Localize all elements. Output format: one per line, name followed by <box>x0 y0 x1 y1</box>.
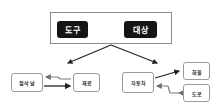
car-label: 자동차 <box>131 79 146 86</box>
road-label: 도로 <box>192 90 202 97</box>
road-node: 도로 <box>183 84 210 102</box>
split-arrow-left <box>68 45 111 63</box>
split-arrow-right <box>111 45 157 63</box>
diagram-canvas: 도구 대상 절삭 날 재료 자동차 화물 도로 <box>0 0 224 110</box>
cargo-label: 화물 <box>192 68 202 75</box>
tool-node: 도구 <box>57 21 88 38</box>
material-to-edge-arrow <box>46 77 71 79</box>
object-label: 대상 <box>133 24 149 35</box>
car-node: 자동차 <box>122 72 154 93</box>
material-node: 재료 <box>73 73 100 92</box>
material-label: 재료 <box>82 79 92 86</box>
object-node: 대상 <box>124 21 157 38</box>
cutting-edge-label: 절삭 날 <box>19 79 36 86</box>
car-to-cargo-arrow <box>155 71 179 78</box>
cutting-edge-node: 절삭 날 <box>11 73 43 92</box>
road-car-arrow <box>157 86 179 93</box>
tool-label: 도구 <box>65 24 81 35</box>
cargo-node: 화물 <box>183 62 210 80</box>
